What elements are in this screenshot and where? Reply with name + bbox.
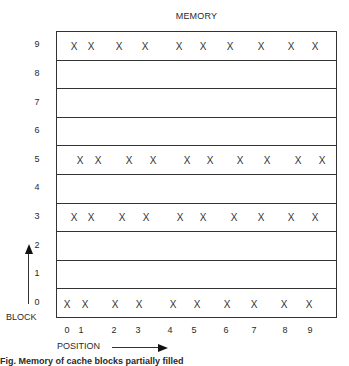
- memory-grid: XXXXXXXXXXXXXXXXXXXXXXXXXXXXXXXXXXXXXXXX: [56, 31, 337, 318]
- filled-mark: X: [288, 212, 295, 223]
- filled-mark: X: [237, 155, 244, 166]
- filled-mark: X: [194, 298, 201, 309]
- position-label: 7: [251, 325, 256, 335]
- filled-mark: X: [177, 212, 184, 223]
- position-label: 0: [64, 325, 69, 335]
- filled-mark: X: [170, 298, 177, 309]
- filled-mark: X: [88, 40, 95, 51]
- figure-caption: Fig. Memory of cache blocks partially fi…: [0, 356, 184, 366]
- filled-mark: X: [142, 40, 149, 51]
- filled-mark: X: [136, 298, 143, 309]
- filled-mark: X: [227, 40, 234, 51]
- filled-mark: X: [288, 40, 295, 51]
- filled-mark: X: [71, 212, 78, 223]
- position-label: 3: [135, 325, 140, 335]
- block-label: 9: [30, 39, 44, 49]
- position-label: 9: [307, 325, 312, 335]
- filled-mark: X: [116, 40, 123, 51]
- filled-mark: X: [71, 40, 78, 51]
- filled-mark: X: [231, 212, 238, 223]
- filled-mark: X: [258, 212, 265, 223]
- filled-mark: X: [126, 155, 133, 166]
- block-label: 8: [30, 68, 44, 78]
- filled-mark: X: [264, 155, 271, 166]
- filled-mark: X: [251, 298, 258, 309]
- arrow-right-icon: [158, 344, 168, 352]
- filled-mark: X: [312, 212, 319, 223]
- position-label: 8: [282, 325, 287, 335]
- filled-mark: X: [207, 155, 214, 166]
- block-label: 7: [30, 97, 44, 107]
- block-row-6: [57, 118, 336, 147]
- filled-mark: X: [119, 212, 126, 223]
- filled-mark: X: [64, 298, 71, 309]
- position-axis-label: POSITION: [57, 341, 100, 351]
- block-axis-line: [28, 251, 29, 304]
- block-axis-label: BLOCK: [6, 312, 37, 322]
- filled-mark: X: [224, 298, 231, 309]
- filled-mark: X: [200, 40, 207, 51]
- filled-mark: X: [306, 298, 313, 309]
- filled-mark: X: [176, 40, 183, 51]
- diagram-title: MEMORY: [0, 11, 349, 21]
- position-label: 1: [78, 325, 83, 335]
- block-row-9: XXXXXXXXXX: [57, 32, 336, 61]
- filled-mark: X: [184, 155, 191, 166]
- filled-mark: X: [319, 155, 326, 166]
- filled-mark: X: [258, 40, 265, 51]
- position-axis-line: [112, 347, 162, 348]
- filled-mark: X: [295, 155, 302, 166]
- position-label: 4: [167, 325, 172, 335]
- filled-mark: X: [312, 40, 319, 51]
- block-row-5: XXXXXXXXXX: [57, 146, 336, 175]
- filled-mark: X: [281, 298, 288, 309]
- block-row-4: [57, 175, 336, 204]
- position-label: 6: [223, 325, 228, 335]
- block-row-2: [57, 232, 336, 261]
- block-label: 3: [30, 211, 44, 221]
- filled-mark: X: [150, 155, 157, 166]
- block-row-8: [57, 61, 336, 90]
- filled-mark: X: [88, 212, 95, 223]
- position-label: 5: [191, 325, 196, 335]
- filled-mark: X: [95, 155, 102, 166]
- filled-mark: X: [77, 155, 84, 166]
- block-row-7: [57, 89, 336, 118]
- filled-mark: X: [143, 212, 150, 223]
- position-label: 2: [111, 325, 116, 335]
- block-label: 4: [30, 182, 44, 192]
- filled-mark: X: [200, 212, 207, 223]
- block-label: 1: [30, 268, 44, 278]
- block-label: 5: [30, 154, 44, 164]
- block-row-1: [57, 261, 336, 290]
- block-row-3: XXXXXXXXXX: [57, 204, 336, 233]
- filled-mark: X: [82, 298, 89, 309]
- block-label: 0: [30, 297, 44, 307]
- block-label: 6: [30, 125, 44, 135]
- block-row-0: XXXXXXXXXX: [57, 289, 336, 318]
- arrow-up-icon: [25, 244, 33, 254]
- filled-mark: X: [112, 298, 119, 309]
